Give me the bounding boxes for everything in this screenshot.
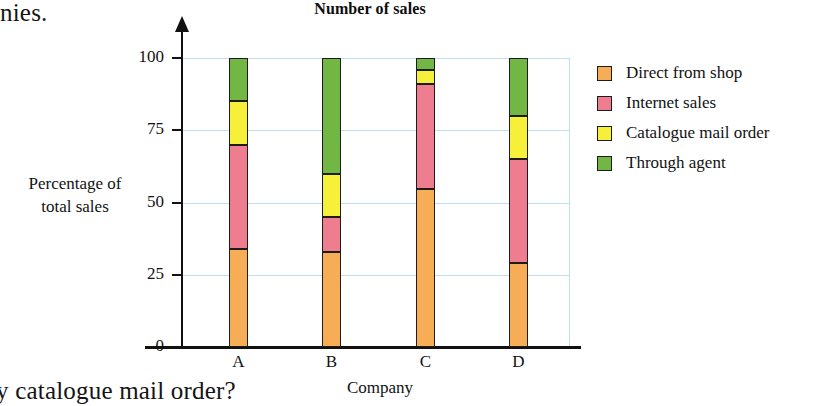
- legend-label: Internet sales: [626, 93, 716, 113]
- legend-item[interactable]: Through agent: [597, 148, 823, 178]
- y-axis-tick: [172, 129, 183, 131]
- bar-segment[interactable]: [416, 189, 435, 347]
- y-axis-arrow-icon: [175, 16, 189, 32]
- bar-segment[interactable]: [322, 58, 341, 174]
- y-axis-tick-label: 100: [120, 47, 164, 67]
- legend-label: Catalogue mail order: [626, 123, 770, 143]
- bar-segment[interactable]: [322, 174, 341, 217]
- y-axis-tick: [172, 274, 183, 276]
- y-axis-tick: [172, 346, 183, 348]
- bar-segment[interactable]: [322, 252, 341, 347]
- bar-segment[interactable]: [509, 159, 528, 263]
- chart-title: Number of sales: [270, 0, 470, 18]
- y-axis-tick-label: 0: [120, 336, 164, 356]
- bar-segment[interactable]: [509, 116, 528, 159]
- bar-d[interactable]: [509, 58, 528, 347]
- y-axis-tick: [172, 202, 183, 204]
- y-axis-tick-label: 25: [120, 264, 164, 284]
- bar-c[interactable]: [416, 58, 435, 347]
- y-axis-tick-label: 75: [120, 119, 164, 139]
- bar-segment[interactable]: [416, 84, 435, 189]
- stacked-bar-chart: Number of sales 0255075100 ABCD Company …: [0, 0, 823, 406]
- legend-item[interactable]: Catalogue mail order: [597, 118, 823, 148]
- legend-label: Through agent: [626, 153, 726, 173]
- bar-segment[interactable]: [229, 58, 248, 101]
- legend-label: Direct from shop: [626, 63, 742, 83]
- bar-segment[interactable]: [509, 58, 528, 116]
- legend-swatch-icon: [597, 96, 612, 111]
- bar-segment[interactable]: [229, 145, 248, 249]
- y-axis-title-line2: total sales: [0, 195, 150, 218]
- bar-segment[interactable]: [229, 101, 248, 144]
- bar-segment[interactable]: [509, 263, 528, 347]
- x-axis-tick-label-d: D: [499, 352, 539, 372]
- y-axis-title-line1: Percentage of: [0, 172, 150, 195]
- chart-legend: Direct from shopInternet salesCatalogue …: [597, 58, 823, 178]
- bar-segment[interactable]: [322, 217, 341, 252]
- bar-b[interactable]: [322, 58, 341, 347]
- x-axis-tick-label-a: A: [219, 352, 259, 372]
- x-axis-title: Company: [320, 378, 440, 398]
- legend-swatch-icon: [597, 66, 612, 81]
- y-axis-line: [181, 30, 183, 348]
- legend-item[interactable]: Internet sales: [597, 88, 823, 118]
- y-axis-tick: [172, 57, 183, 59]
- x-axis-tick-label-b: B: [312, 352, 352, 372]
- legend-swatch-icon: [597, 126, 612, 141]
- legend-item[interactable]: Direct from shop: [597, 58, 823, 88]
- y-axis-title: Percentage of total sales: [0, 172, 150, 218]
- bar-a[interactable]: [229, 58, 248, 347]
- legend-swatch-icon: [597, 156, 612, 171]
- x-axis-tick-label-c: C: [406, 352, 446, 372]
- bar-segment[interactable]: [416, 70, 435, 84]
- bar-segment[interactable]: [229, 249, 248, 347]
- bar-segment[interactable]: [416, 58, 435, 70]
